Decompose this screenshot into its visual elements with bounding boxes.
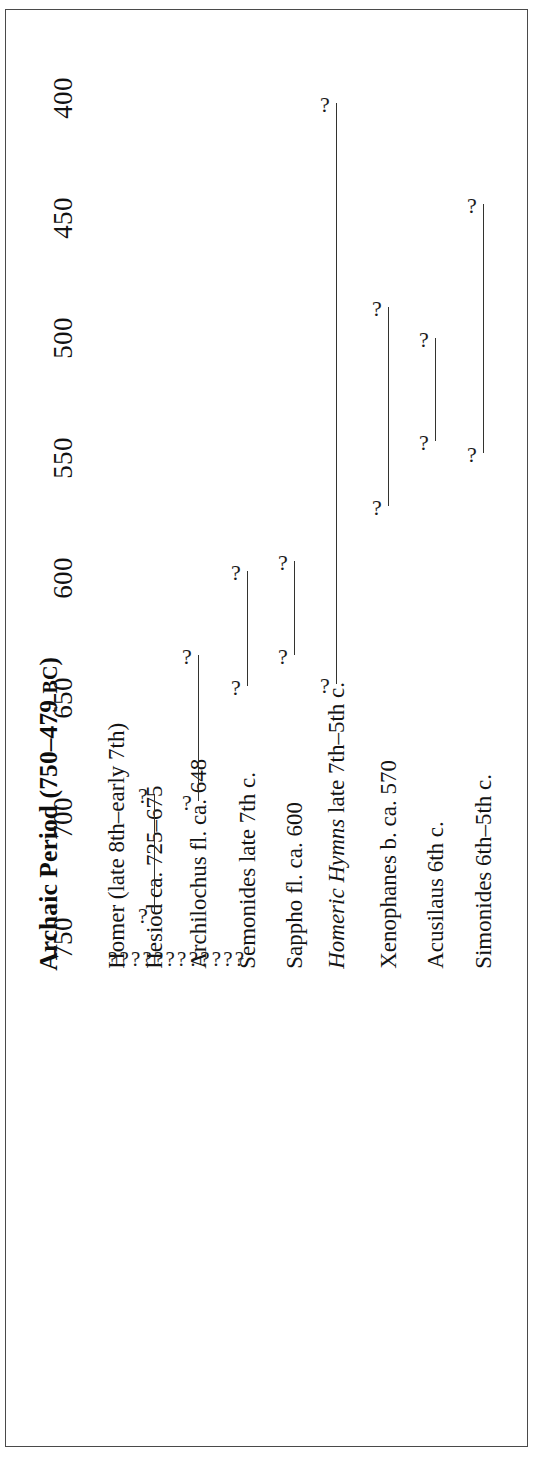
span-homeric-hymns (336, 103, 337, 684)
uncertainty-marker-end: ? (278, 552, 288, 574)
axis-tick-500: 500 (50, 317, 77, 358)
uncertainty-marker-end: ? (138, 785, 148, 807)
axis-tick-550: 550 (50, 437, 77, 478)
axis-tick-700: 700 (50, 797, 77, 838)
span-simonides (483, 204, 484, 454)
row-label-xenophanes: Xenophanes b. ca. 570 (377, 760, 400, 969)
span-semonides (247, 571, 248, 686)
axis-tick-400: 400 (50, 77, 77, 118)
row-label-homer: Homer (late 8th–early 7th) (105, 723, 128, 969)
row-label-semonides: Semonides late 7th c. (236, 772, 259, 969)
uncertainty-marker-end: ? (320, 94, 330, 116)
work-title: Homeric Hymns (324, 819, 349, 969)
figure-frame: Archaic Period (750–479 BC) 400450500550… (5, 9, 528, 1447)
axis-tick-650: 650 (50, 677, 77, 718)
axis-tick-750: 750 (50, 917, 77, 958)
uncertainty-marker-end: ? (182, 646, 192, 668)
rotated-figure-canvas: Archaic Period (750–479 BC) 400450500550… (11, 19, 534, 1457)
row-label-simonides: Simonides 6th–5th c. (472, 774, 495, 969)
span-archilochus (198, 655, 199, 801)
span-homer-uncertain: ???????????? (108, 949, 246, 970)
span-hesiod (154, 794, 155, 914)
uncertainty-marker-end: ? (467, 195, 477, 217)
uncertainty-marker-end: ? (231, 562, 241, 584)
uncertainty-marker-start: ? (231, 677, 241, 699)
span-xenophanes (388, 307, 389, 506)
span-sappho (294, 561, 295, 655)
uncertainty-marker-start: ? (138, 905, 148, 927)
uncertainty-marker-end: ? (419, 329, 429, 351)
uncertainty-marker-end: ? (372, 298, 382, 320)
uncertainty-marker-start: ? (419, 432, 429, 454)
uncertainty-marker-start: ? (372, 497, 382, 519)
row-label-sappho: Sappho fl. ca. 600 (283, 802, 306, 969)
uncertainty-marker-start: ? (278, 646, 288, 668)
uncertainty-marker-start: ? (320, 675, 330, 697)
uncertainty-marker-start: ? (182, 792, 192, 814)
row-label-acusilaus: Acusilaus 6th c. (424, 821, 447, 969)
span-acusilaus (435, 338, 436, 441)
uncertainty-marker-start: ? (467, 444, 477, 466)
axis-tick-450: 450 (50, 197, 77, 238)
row-label-rest: late 7th–5th c. (324, 682, 349, 819)
timeline-plot: Archaic Period (750–479 BC) 400450500550… (11, 19, 534, 1457)
row-label-homeric-hymns: Homeric Hymns late 7th–5th c. (325, 682, 348, 969)
axis-tick-600: 600 (50, 557, 77, 598)
